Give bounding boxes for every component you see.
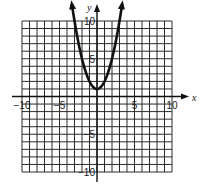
curve-arrow-icon bbox=[118, 0, 125, 9]
coordinate-plane: −10−5510105−5−10 x y bbox=[0, 0, 207, 189]
x-tick-label: 5 bbox=[132, 100, 138, 111]
curve-arrow-icon bbox=[69, 0, 76, 9]
y-tick-label: 10 bbox=[84, 16, 96, 27]
y-tick-label: −5 bbox=[84, 129, 96, 140]
x-axis-arrow-icon bbox=[181, 94, 189, 100]
axes bbox=[12, 4, 189, 182]
y-tick-label: 5 bbox=[89, 54, 95, 65]
x-tick-label: −10 bbox=[14, 100, 31, 111]
y-axis-label: y bbox=[86, 2, 92, 13]
y-axis-arrow-icon bbox=[94, 4, 100, 12]
x-axis-label: x bbox=[191, 92, 197, 103]
x-tick-label: −5 bbox=[54, 100, 66, 111]
y-tick-label: −10 bbox=[78, 167, 95, 178]
x-tick-label: 10 bbox=[166, 100, 178, 111]
